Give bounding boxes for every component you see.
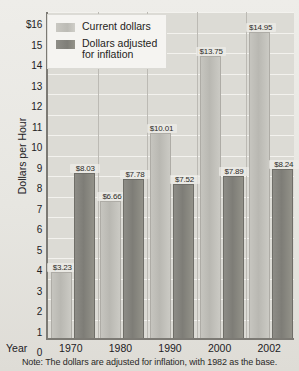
y-axis-title: Dollars per Hour	[16, 86, 28, 226]
bar-2000-current	[200, 56, 221, 338]
legend-swatch-adjusted-dollars	[56, 40, 75, 49]
chart-legend: Current dollars Dollars adjusted for inf…	[47, 14, 167, 69]
y-axis-tick: 1	[2, 326, 46, 337]
x-axis-tick: 1980	[109, 342, 132, 354]
bar-2000-adjusted	[223, 176, 244, 338]
y-axis-tick: 2	[2, 306, 46, 317]
bar-value-label: $8.24	[269, 160, 299, 169]
chart-note: Note: The dollars are adjusted for infla…	[0, 357, 299, 367]
bar-1980-adjusted	[123, 179, 144, 338]
x-axis-tick: 1970	[59, 342, 82, 354]
bar-value-label: $7.52	[170, 175, 200, 184]
legend-label-current-dollars: Current dollars	[82, 21, 151, 33]
y-axis-tick: 15	[2, 39, 46, 50]
legend-label-adjusted-dollars: Dollars adjusted for inflation	[82, 38, 157, 61]
legend-item-adjusted-dollars: Dollars adjusted for inflation	[56, 38, 157, 61]
gridline	[48, 12, 294, 13]
bar-value-label: $13.75	[196, 47, 226, 56]
y-axis-tick: 5	[2, 244, 46, 255]
x-axis-tick: 1990	[158, 342, 181, 354]
bar-2002-current	[249, 32, 270, 338]
y-axis-tick: 3	[2, 285, 46, 296]
bar-2002-adjusted	[272, 169, 293, 338]
x-axis-tick: 2002	[258, 342, 281, 354]
bar-value-label: $7.78	[120, 170, 150, 179]
bar-value-label: $8.03	[70, 164, 100, 173]
bar-1990-adjusted	[173, 184, 194, 338]
bar-value-label: $14.95	[246, 23, 276, 32]
bar-value-label: $10.01	[147, 124, 177, 133]
y-axis-tick: 4	[2, 265, 46, 276]
bar-1970-current	[51, 272, 72, 338]
bar-1980-current	[100, 201, 121, 338]
x-axis-tick-labels: 19701980199020002002	[46, 342, 294, 358]
legend-item-current-dollars: Current dollars	[56, 21, 157, 33]
bar-1990-current	[150, 133, 171, 338]
bar-1970-adjusted	[74, 173, 95, 338]
x-axis-title: Year	[6, 342, 27, 354]
x-axis-tick: 2000	[208, 342, 231, 354]
y-axis-tick: $16	[2, 19, 46, 30]
bar-value-label: $7.89	[219, 167, 249, 176]
y-axis-tick: 14	[2, 60, 46, 71]
legend-swatch-current-dollars	[56, 23, 75, 32]
bar-value-label: $6.66	[97, 192, 127, 201]
chart-figure: 0123456789101112131415$16 Dollars per Ho…	[0, 0, 299, 371]
